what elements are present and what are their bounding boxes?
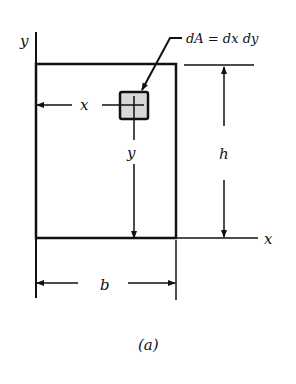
rectangle-area — [36, 64, 176, 238]
x-distance-label: x — [80, 96, 89, 114]
height-label: h — [219, 145, 229, 163]
x-axis-label: x — [264, 230, 273, 248]
area-moment-diagram: y x y x dA = dx dy h b (a) — [0, 0, 296, 384]
width-label: b — [100, 276, 110, 294]
element-label: dA = dx dy — [186, 31, 259, 46]
y-distance-label: y — [126, 144, 136, 162]
y-axis-label: y — [19, 32, 29, 50]
figure-caption: (a) — [138, 336, 159, 354]
